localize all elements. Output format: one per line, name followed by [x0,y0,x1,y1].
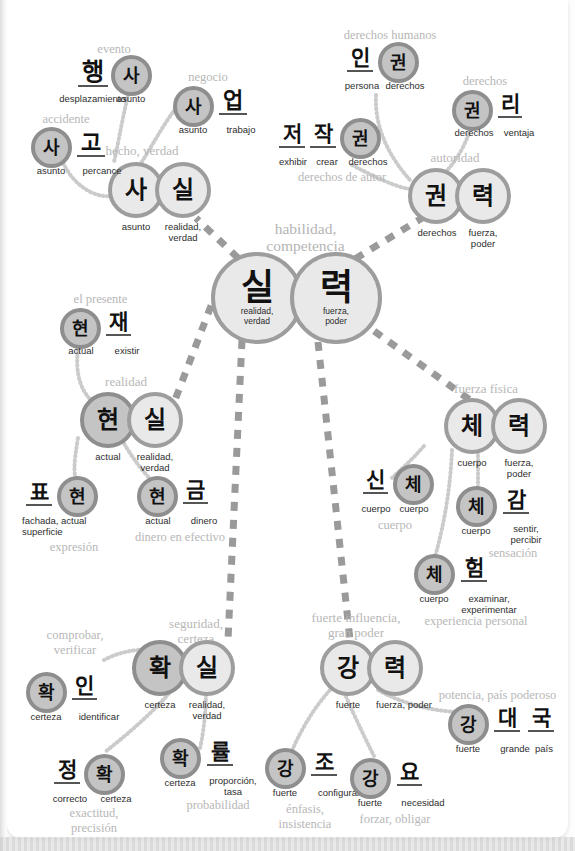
char-cheheom-heom: 험 [461,558,487,582]
node-gangjo-gang[interactable]: 강 [265,748,306,789]
node-char: 사 [43,139,60,157]
label-expresion: expresión [26,540,122,555]
node-cheheom-che[interactable]: 체 [414,554,455,595]
gloss-cheheom-heom: examinar, experimentar [452,594,526,615]
node-gwonryeok-ryeok[interactable]: 력 [455,168,511,224]
node-hyeonsil-sil[interactable]: 실 [127,392,183,448]
label-fuerza-fisica: fuerza física [431,381,541,396]
gloss-chegam-gam: sentir, percibir [498,524,554,545]
node-char: 확 [172,750,189,768]
label-cuerpo: cuerpo [350,518,440,533]
gloss-ingwon-gwon: derechos [372,81,438,92]
node-jeojakgwon-gwon[interactable]: 권 [340,118,381,159]
node-char: 력 [472,184,494,208]
char-jeonghwak-jeong: 정 [54,760,80,784]
char-gangdaeguk-guk: 국 [528,708,554,732]
node-char: 체 [468,498,485,516]
node-char: 강 [277,760,294,778]
center-meaning: habilidad, competencia [243,220,368,255]
node-char: 체 [405,476,422,494]
gloss-gangdaeguk-guk: país [528,744,560,755]
node-char: 권 [390,54,407,72]
char-hyeonjae-jae: 재 [106,312,131,336]
node-char: 확 [38,684,55,702]
gloss-jeojakgwon-gwon: derechos [337,157,399,168]
node-haengsa-sa[interactable]: 사 [111,55,152,96]
label-realidad: realidad [78,374,174,389]
label-potencia-pais: potencia, país poderoso [420,688,575,703]
node-char: 사 [123,67,140,85]
node-center-sil-content: 실 realidad, verdad [241,270,274,325]
label-negocio: negocio [168,70,248,85]
node-gangdaeguk-gang[interactable]: 강 [448,704,489,745]
node-hwaksil-sil[interactable]: 실 [179,640,235,696]
node-char: 체 [426,566,443,584]
char-gwolli-ri: 리 [498,94,522,118]
node-char: 확 [149,656,171,680]
gloss-sasil-sil: realidad, verdad [152,222,214,243]
node-sago-sa[interactable]: 사 [31,127,72,168]
node-char: 실 [144,408,166,432]
node-char: 력 [384,656,406,680]
char-saeop-eop: 업 [219,90,247,115]
node-ingwon-gwon[interactable]: 권 [378,42,419,83]
node-gangnyeok-ryeok[interactable]: 력 [367,640,423,696]
node-hyeonjae-hyeon[interactable]: 현 [60,308,101,349]
node-chegam-che[interactable]: 체 [456,486,497,527]
label-probabilidad: probabilidad [166,798,270,813]
char-haengsa-haeng: 행 [78,60,108,87]
node-char: 실 [172,178,194,202]
gloss-hyeongeum-geum: dinero [176,516,232,527]
node-char: 실 [241,270,274,306]
gloss-pyohyeon: fachada, actual superficie [22,516,112,537]
node-char: 력 [508,414,530,438]
node-cheryeok-ryeok[interactable]: 력 [491,398,547,454]
gloss-sinche-che: cuerpo [388,504,440,515]
char-jeojakgwon-jeo: 저 [279,124,305,148]
node-char: 권 [352,130,369,148]
node-pyohyeon-hyeon[interactable]: 현 [57,476,98,517]
char-gangyo-yo: 요 [397,762,422,786]
node-char: 강 [362,770,379,788]
label-comprobar-verificar: comprobar, verificar [20,628,130,657]
gloss-sago-go: percance [71,166,133,177]
label-evento: evento [75,42,153,57]
node-center-ryeok[interactable]: 력 fuerza, poder [290,252,382,344]
char-hwangnyul-nyul: 률 [207,742,233,766]
node-gangyo-gang[interactable]: 강 [350,758,391,799]
node-gloss: fuerza, poder [323,307,349,325]
node-hwagin-hwak[interactable]: 확 [26,672,67,713]
node-char: 현 [149,488,166,506]
char-gangdaeguk-dae: 대 [494,708,520,732]
node-hwangnyul-hwak[interactable]: 확 [160,738,201,779]
label-enfasis-insistencia: énfasis, insistencia [257,802,353,831]
node-char: 실 [196,656,218,680]
node-hyeongeum-hyeon[interactable]: 현 [137,476,178,517]
label-autoridad: autoridad [405,150,505,165]
node-char: 현 [97,408,119,432]
label-exactitud-precision: exactitud, precisión [44,806,144,835]
char-ingwon-in: 인 [347,48,373,72]
diagram-canvas: habilidad, competencia 실 realidad, verda… [0,0,575,851]
node-char: 현 [72,320,89,338]
node-saeop-sa[interactable]: 사 [173,86,214,127]
node-sasil-sil[interactable]: 실 [155,162,211,218]
node-sinche-che[interactable]: 체 [393,464,434,505]
gloss-haengsa-sa: asunto [102,94,160,105]
node-gloss: realidad, verdad [241,307,274,325]
node-char: 현 [69,488,86,506]
node-char: 체 [461,414,483,438]
gloss-jeonghwak-hwak: certeza [88,794,144,805]
gloss-hwaksil-sil: realidad, verdad [176,700,238,721]
node-jeonghwak-hwak[interactable]: 확 [84,754,125,795]
char-jeojakgwon-jak: 작 [310,124,336,148]
center-meaning-line1: habilidad, [275,220,337,237]
gloss-hyeonjae-jae: existir [99,346,155,357]
gloss-gwonryeok-ryeok: fuerza, poder [452,228,514,249]
char-gangjo-jo: 조 [311,752,337,776]
page-edge-left [0,0,7,851]
node-gwolli-gwon[interactable]: 권 [452,90,493,131]
page-edge-bottom [0,837,575,851]
char-hwagin-in: 인 [72,676,97,700]
label-accidente: accidente [20,112,112,127]
